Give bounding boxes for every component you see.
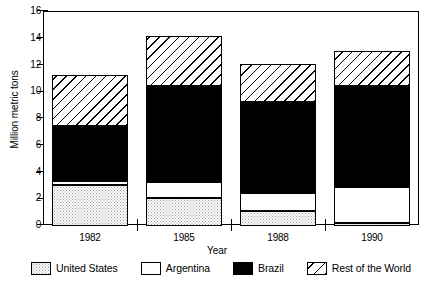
legend-swatch-dotted [31,262,51,275]
bar-segment-brazil-1990 [334,86,410,188]
stacked-bar-chart: Million metric tons 0246810121416 198219… [0,0,434,281]
y-axis-tick-label: 6 [19,140,41,150]
y-axis-tick-label: 4 [19,167,41,177]
bar-segment-rest-of-the-world-1990 [334,51,410,86]
bar-segment-united-states-1982 [52,185,128,226]
legend-item-rest-of-the-world: Rest of the World [307,262,411,275]
x-axis-tick-label: 1988 [248,232,308,243]
y-axis-tick-label: 10 [19,86,41,96]
bar-segment-brazil-1982 [52,126,128,181]
legend-label: Rest of the World [332,263,411,274]
chart-legend: United StatesArgentinaBrazilRest of the … [31,258,411,278]
bar-segment-brazil-1985 [146,86,222,182]
x-axis-tick-label: 1982 [60,232,120,243]
bar-segment-argentina-1990 [334,187,410,223]
bar-segment-argentina-1982 [52,181,128,185]
y-axis: 0246810121416 [0,0,41,281]
bar-1990 [334,12,410,226]
y-axis-tick-label: 14 [19,33,41,43]
legend-label: Brazil [258,263,284,274]
bar-1985 [146,12,222,226]
y-axis-tick-label: 12 [19,60,41,70]
x-axis-tick-label: 1985 [154,232,214,243]
legend-label: Argentina [166,263,210,274]
x-axis-tick [325,219,326,231]
y-axis-tick-label: 0 [19,220,41,230]
x-axis-title: Year [0,245,434,256]
legend-swatch-hatch [307,262,327,275]
legend-label: United States [56,263,118,274]
legend-item-brazil: Brazil [233,262,284,275]
legend-item-argentina: Argentina [141,262,210,275]
legend-item-united-states: United States [31,262,118,275]
bar-segment-rest-of-the-world-1985 [146,36,222,85]
bar-segment-argentina-1988 [240,193,316,212]
plot-area [43,11,419,225]
bar-segment-united-states-1988 [240,211,316,226]
y-axis-tick-label: 16 [19,6,41,16]
bar-segment-rest-of-the-world-1982 [52,75,128,126]
legend-swatch-white [141,262,161,275]
bar-segment-brazil-1988 [240,102,316,193]
y-axis-tick-label: 8 [19,113,41,123]
x-axis-tick-label: 1990 [342,232,402,243]
bar-segment-rest-of-the-world-1988 [240,64,316,101]
y-axis-tick-label: 2 [19,193,41,203]
bar-segment-united-states-1990 [334,223,410,226]
bar-segment-united-states-1985 [146,198,222,226]
bar-segment-argentina-1985 [146,182,222,198]
x-axis-tick [231,219,232,231]
bar-1988 [240,12,316,226]
bar-1982 [52,12,128,226]
legend-swatch-black [233,262,253,275]
x-axis-tick [137,219,138,231]
